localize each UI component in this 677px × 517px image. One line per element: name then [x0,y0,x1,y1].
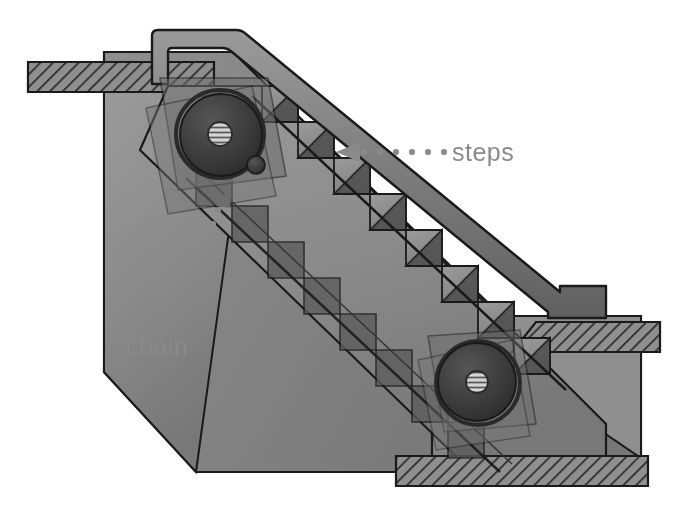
drive-sprocket-wheel-upper [146,78,286,214]
diagram-canvas: steps chain [0,0,677,517]
escalator-diagram: steps chain [0,0,677,517]
steps-label: steps [452,138,514,166]
hatched-floor-slab-bottom-right [396,456,648,486]
chain-label: chain [126,332,188,360]
return-sprocket-wheel-lower [418,330,536,450]
